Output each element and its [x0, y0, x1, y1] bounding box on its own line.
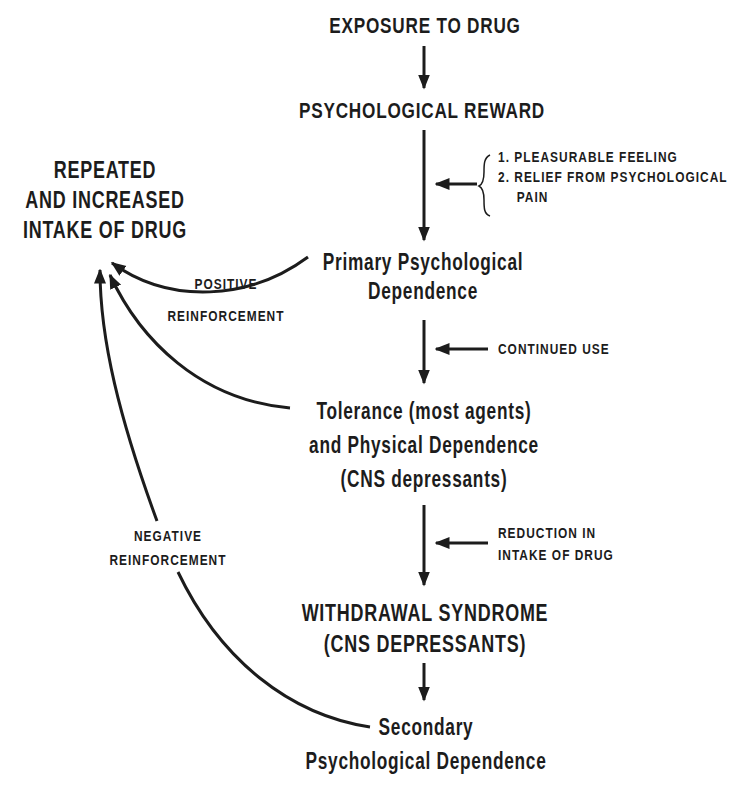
exposure-label: EXPOSURE TO DRUG	[329, 12, 520, 39]
primary-dependence-node: Primary Psychological Dependence	[323, 247, 523, 305]
withdrawal-line-1: WITHDRAWAL SYNDROME	[302, 598, 549, 629]
withdrawal-line-2: (CNS DEPRESSANTS)	[302, 629, 549, 660]
reduction-intake-label: REDUCTION IN INTAKE OF DRUG	[498, 522, 614, 566]
reward-label: PSYCHOLOGICAL REWARD	[299, 97, 545, 124]
positive-reinforcement-label: POSITIVE REINFORCEMENT	[167, 268, 284, 332]
positive-line-1: POSITIVE	[167, 268, 284, 300]
negative-line-2: REINFORCEMENT	[109, 548, 226, 572]
tolerance-node: Tolerance (most agents) and Physical Dep…	[309, 394, 539, 496]
tolerance-line-3: (CNS depressants)	[309, 462, 539, 496]
primary-line-2: Dependence	[323, 276, 523, 305]
exposure-to-drug-node: EXPOSURE TO DRUG	[329, 12, 520, 39]
reward-reasons-list: 1. PLEASURABLE FEELING 2. RELIEF FROM PS…	[498, 147, 728, 207]
secondary-dependence-node: Secondary Psychological Dependence	[305, 710, 546, 778]
primary-line-1: Primary Psychological	[323, 247, 523, 276]
reduction-line-2: INTAKE OF DRUG	[498, 544, 614, 566]
secondary-line-1: Secondary	[305, 710, 546, 744]
repeated-intake-node: REPEATED AND INCREASED INTAKE OF DRUG	[23, 155, 187, 245]
tolerance-line-1: Tolerance (most agents)	[309, 394, 539, 428]
secondary-line-2: Psychological Dependence	[305, 744, 546, 778]
positive-line-2: REINFORCEMENT	[167, 300, 284, 332]
psychological-reward-node: PSYCHOLOGICAL REWARD	[299, 97, 545, 124]
reduction-line-1: REDUCTION IN	[498, 522, 614, 544]
intake-line-3: INTAKE OF DRUG	[23, 215, 187, 245]
brace-icon	[479, 155, 490, 216]
negative-reinforcement-label: NEGATIVE REINFORCEMENT	[109, 524, 226, 572]
withdrawal-syndrome-node: WITHDRAWAL SYNDROME (CNS DEPRESSANTS)	[302, 598, 549, 660]
intake-line-1: REPEATED	[23, 155, 187, 185]
intake-line-2: AND INCREASED	[23, 185, 187, 215]
negative-line-1: NEGATIVE	[109, 524, 226, 548]
reason-relief-pain-cont: PAIN	[498, 187, 728, 207]
reason-relief-pain: 2. RELIEF FROM PSYCHOLOGICAL	[498, 167, 728, 187]
tolerance-line-2: and Physical Dependence	[309, 428, 539, 462]
continued-use-text: CONTINUED USE	[498, 339, 610, 359]
reason-pleasurable-feeling: 1. PLEASURABLE FEELING	[498, 147, 728, 167]
continued-use-label: CONTINUED USE	[498, 339, 610, 359]
